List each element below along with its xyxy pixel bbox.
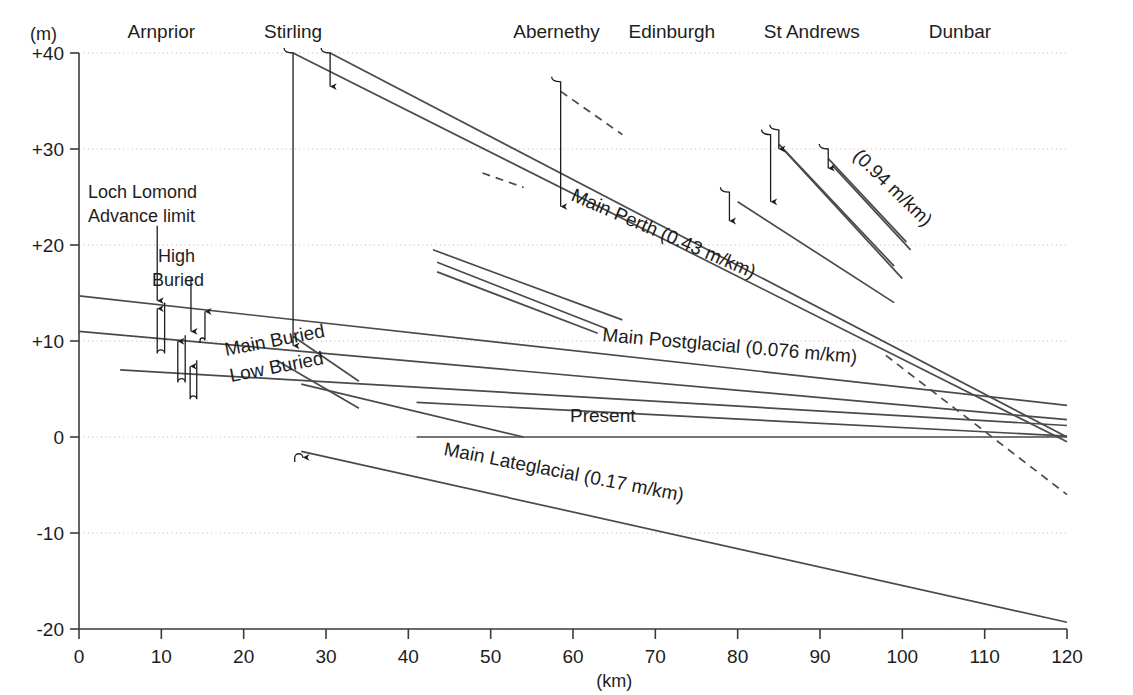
series-main-lateglacial — [301, 451, 1067, 622]
x-tick-label-10: 10 — [151, 646, 172, 667]
annotation-present: Present — [570, 405, 636, 426]
x-tick-label-0: 0 — [74, 646, 85, 667]
series-abernethy-dashed — [561, 91, 623, 134]
y-tick-label-+10: +10 — [32, 331, 64, 352]
hook-arrow-0 — [157, 303, 164, 354]
curve-and-text-annotations: Loch LomondAdvance limitHighBuriedMain B… — [88, 145, 937, 506]
x-tick-label-90: 90 — [809, 646, 830, 667]
series-mid-fan-2 — [437, 262, 606, 328]
y-tick-label--10: -10 — [37, 523, 64, 544]
annotation-main-postglacial: Main Postglacial (0.076 m/km) — [602, 324, 858, 367]
y-tick-label-+30: +30 — [32, 139, 64, 160]
y-tick-label-+40: +40 — [32, 43, 64, 64]
x-tick-label-100: 100 — [886, 646, 918, 667]
down-arrow-3 — [720, 187, 729, 221]
hook-arrow-4 — [295, 454, 303, 462]
down-arrow-0 — [284, 48, 293, 346]
hook-arrow-3 — [200, 311, 205, 342]
x-tick-label-40: 40 — [398, 646, 419, 667]
annotation-high-buried-line1: High — [158, 246, 195, 266]
x-unit-label: (km) — [596, 671, 632, 691]
locality-label-st-andrews: St Andrews — [764, 21, 860, 42]
annotation-loch-lomond-line1: Loch Lomond — [88, 182, 197, 202]
annotation-loch-lomond-line2: Advance limit — [88, 206, 195, 226]
down-arrow-4 — [762, 130, 771, 202]
x-tick-label-50: 50 — [480, 646, 501, 667]
x-tick-label-70: 70 — [645, 646, 666, 667]
x-tick-label-60: 60 — [562, 646, 583, 667]
series-mid-fan-1 — [433, 250, 622, 320]
x-tick-label-20: 20 — [233, 646, 254, 667]
down-arrow-6 — [819, 144, 828, 168]
axis-tick-labels: +40+30+20+100-10-20010203040506070809010… — [32, 43, 1083, 667]
series-main-perth-dashed-extension — [886, 355, 1067, 494]
annotation-high-buried-line2: Buried — [152, 270, 204, 290]
shoreline-relative-sealevel-chart: +40+30+20+100-10-20010203040506070809010… — [0, 0, 1133, 695]
locality-labels: ArnpriorStirlingAbernethyEdinburghSt And… — [128, 21, 992, 42]
axis-ticks — [70, 53, 1067, 639]
x-tick-label-120: 120 — [1051, 646, 1083, 667]
locality-label-abernethy: Abernethy — [513, 21, 600, 42]
annotation-main-perth: Main Perth (0.43 m/km) — [568, 184, 759, 282]
annotation-094-gradient: (0.94 m/km) — [849, 145, 936, 231]
y-tick-label-0: 0 — [53, 427, 64, 448]
locality-label-arnprior: Arnprior — [128, 21, 196, 42]
locality-label-stirling: Stirling — [264, 21, 322, 42]
unit-labels: (m)(km) — [30, 24, 632, 691]
y-unit-label: (m) — [30, 24, 57, 44]
y-tick-label--20: -20 — [37, 619, 64, 640]
x-tick-label-110: 110 — [970, 646, 1000, 667]
x-tick-label-80: 80 — [727, 646, 748, 667]
figure-container: +40+30+20+100-10-20010203040506070809010… — [0, 0, 1133, 695]
hook-arrow-1 — [178, 335, 185, 382]
locality-label-edinburgh: Edinburgh — [628, 21, 715, 42]
locality-label-dunbar: Dunbar — [929, 21, 992, 42]
x-tick-label-30: 30 — [315, 646, 336, 667]
annotation-main-lateglacial: Main Lateglacial (0.17 m/km) — [442, 438, 685, 505]
hook-arrow-2 — [190, 360, 197, 399]
y-tick-label-+20: +20 — [32, 235, 64, 256]
series-main-perth-short-dashed-segment — [482, 173, 523, 187]
